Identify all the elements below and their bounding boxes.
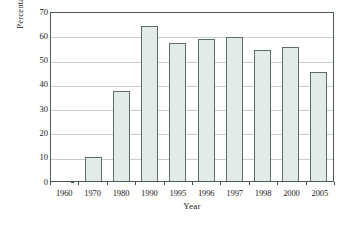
bar-1990[interactable] xyxy=(141,26,158,181)
bar-2005[interactable] xyxy=(310,72,327,181)
x-tick-label: 1970 xyxy=(78,186,106,200)
y-tick-label: 50 xyxy=(26,56,48,65)
x-tick-label: 1996 xyxy=(192,186,220,200)
x-tick-mark xyxy=(50,182,51,185)
x-tick-label: 1995 xyxy=(164,186,192,200)
x-tick-label: 1997 xyxy=(220,186,248,200)
bar-1997[interactable] xyxy=(226,37,243,182)
y-tick-label: 70 xyxy=(26,8,48,17)
x-tick-mark xyxy=(220,182,221,185)
x-tick-mark xyxy=(164,182,165,185)
bar-slot xyxy=(248,13,276,181)
x-tick-label: 1960 xyxy=(50,186,78,200)
y-axis-title: Percentage xyxy=(14,0,26,64)
x-tick-label: 2005 xyxy=(306,186,334,200)
bar-1970[interactable] xyxy=(85,157,102,181)
y-tick-label: 30 xyxy=(26,105,48,114)
x-tick-label: 1998 xyxy=(249,186,277,200)
bar-1996[interactable] xyxy=(198,39,215,181)
x-axis-tick-labels: 1960197019801990199519961997199820002005 xyxy=(50,186,334,200)
bar-slot xyxy=(164,13,192,181)
x-tick-mark xyxy=(107,182,108,185)
y-axis-tick-labels: 010203040506070 xyxy=(26,12,48,182)
x-tick-mark xyxy=(192,182,193,185)
y-tick-label: 40 xyxy=(26,80,48,89)
x-tick-mark xyxy=(277,182,278,185)
x-tick-mark xyxy=(334,182,335,185)
x-tick-mark xyxy=(78,182,79,185)
bar-1980[interactable] xyxy=(113,91,130,181)
x-tick-mark xyxy=(135,182,136,185)
bar-slot xyxy=(220,13,248,181)
plot-area xyxy=(50,12,334,182)
bar-slot xyxy=(79,13,107,181)
x-tick-label: 1990 xyxy=(135,186,163,200)
x-tick-label: 1980 xyxy=(107,186,135,200)
bar-1995[interactable] xyxy=(169,43,186,181)
x-tick-mark xyxy=(306,182,307,185)
bar-slot xyxy=(305,13,333,181)
bar-2000[interactable] xyxy=(282,47,299,181)
bar-slot xyxy=(277,13,305,181)
x-axis-title: Year xyxy=(50,201,334,211)
x-tick-mark xyxy=(249,182,250,185)
bar-slot xyxy=(107,13,135,181)
bar-slot xyxy=(192,13,220,181)
bar-slot xyxy=(136,13,164,181)
bar-1998[interactable] xyxy=(254,50,271,181)
x-tick-label: 2000 xyxy=(277,186,305,200)
y-tick-label: 10 xyxy=(26,153,48,162)
bar-slot xyxy=(51,13,79,181)
y-tick-label: 20 xyxy=(26,129,48,138)
bars-layer xyxy=(51,13,333,181)
bar-chart-figure: Percentage 010203040506070 1960197019801… xyxy=(0,0,350,237)
y-tick-label: 0 xyxy=(26,178,48,187)
y-tick-label: 60 xyxy=(26,32,48,41)
